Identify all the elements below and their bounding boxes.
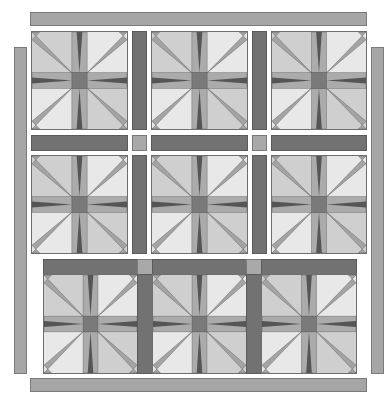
sashing-horizontal-3 — [271, 135, 367, 151]
quilt-block-r1-c2 — [151, 31, 248, 130]
quilt-block-r3-c3 — [261, 274, 357, 374]
sashing-vertical-r1-1 — [132, 31, 147, 130]
quilt-block-r1-c3 — [271, 31, 367, 130]
sashing-horizontal-2 — [151, 135, 248, 151]
sashing-vertical-r3-1 — [137, 274, 153, 374]
quilt-block-r2-c1 — [31, 155, 128, 254]
quilt-block-r3-c1 — [43, 274, 138, 374]
sashing-vertical-r3-2 — [246, 274, 262, 374]
border-left — [14, 47, 27, 374]
sashing-vertical-r1-2 — [252, 31, 267, 130]
sashing-row3-top-1 — [43, 259, 138, 275]
quilt-block-r2-c2 — [151, 155, 248, 254]
border-bottom — [30, 378, 367, 392]
cornerstone-row3-2 — [246, 259, 262, 275]
sashing-vertical-r2-2 — [252, 155, 267, 254]
sashing-row3-top-2 — [152, 259, 247, 275]
border-top — [30, 12, 367, 26]
cornerstone-2 — [252, 135, 267, 151]
sashing-row3-top-3 — [261, 259, 357, 275]
border-right — [371, 47, 384, 374]
quilt-block-r2-c3 — [271, 155, 367, 254]
quilt-block-r1-c1 — [31, 31, 128, 130]
cornerstone-1 — [132, 135, 147, 151]
cornerstone-row3-1 — [137, 259, 153, 275]
quilt-block-r3-c2 — [152, 274, 247, 374]
sashing-horizontal-1 — [31, 135, 128, 151]
sashing-vertical-r2-1 — [132, 155, 147, 254]
